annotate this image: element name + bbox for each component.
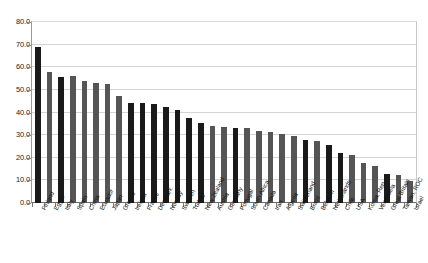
y-axis-tick-mark <box>27 22 31 23</box>
y-axis-tick-mark <box>27 45 31 46</box>
bar <box>82 81 88 203</box>
y-axis-tick-label: 0.0 <box>0 199 30 207</box>
bar <box>140 103 146 203</box>
y-axis-tick-labels: 80.070.060.050.040.030.020.010.00.0 <box>0 15 30 205</box>
y-axis-tick-mark <box>27 67 31 68</box>
y-axis-tick-label: 10.0 <box>0 176 30 184</box>
y-axis-tick-label: 50.0 <box>0 86 30 94</box>
y-axis-tick-mark <box>27 158 31 159</box>
y-axis-tick-mark <box>27 203 31 204</box>
bars-container <box>32 22 416 203</box>
bar <box>35 47 41 203</box>
y-axis-tick-mark <box>27 113 31 114</box>
y-axis-tick-mark <box>27 180 31 181</box>
bar <box>151 104 157 203</box>
bar-chart-figure: 80.070.060.050.040.030.020.010.00.0 Finl… <box>0 0 428 263</box>
y-axis-tick-label: 30.0 <box>0 131 30 139</box>
bar <box>116 96 122 203</box>
bar <box>47 72 53 203</box>
bar <box>105 84 111 203</box>
bar <box>70 76 76 203</box>
y-axis-tick-label: 60.0 <box>0 63 30 71</box>
x-axis-tick-mark <box>32 203 33 207</box>
bar <box>279 134 285 203</box>
y-axis-tick-mark <box>27 135 31 136</box>
bar <box>93 83 99 203</box>
y-axis-tick-label: 20.0 <box>0 154 30 162</box>
y-axis-tick-label: 70.0 <box>0 41 30 49</box>
y-axis-tick-mark <box>27 90 31 91</box>
bar <box>128 103 134 203</box>
x-axis-category-labels: FinlandEgyptItalySpainChinaEcuadorJapanG… <box>32 208 422 263</box>
y-axis-tick-label: 80.0 <box>0 18 30 26</box>
y-axis-tick-label: 40.0 <box>0 109 30 117</box>
bar <box>58 77 64 203</box>
